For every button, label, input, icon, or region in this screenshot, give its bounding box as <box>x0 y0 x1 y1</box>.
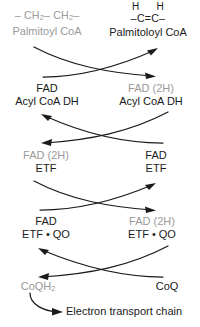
formula-dash-2: – <box>44 9 50 21</box>
acyl-coa-dh-right-enzyme: Acyl CoA DH <box>119 96 183 107</box>
formula-dash-1: – <box>15 9 21 21</box>
coqh2-text: CoQH <box>21 280 52 292</box>
reaction-arrows-layer <box>0 0 200 327</box>
substrate-left-name: Palmitoyl CoA <box>12 26 81 37</box>
etf-left-protein: ETF <box>36 163 57 174</box>
crossing-arrows-etf-qo <box>34 181 156 213</box>
etf-qo-right-cofactor: FAD (2H) <box>129 216 175 227</box>
beta-oxidation-electron-transfer-diagram: – CH2– CH2– Palmitoyl CoA H H –C=C– Palm… <box>0 0 200 327</box>
formula-ch2-2: CH2 <box>53 9 73 21</box>
substrate-left-formula: – CH2– CH2– <box>15 10 80 22</box>
etf-right-cofactor: FAD <box>145 150 166 161</box>
product-right-name: Palmitoloyl CoA <box>109 27 187 38</box>
etf-qo-left-cofactor: FAD <box>35 216 56 227</box>
crossing-arrows-acyl-coa-dh <box>34 47 158 79</box>
coqh2-label: CoQH2 <box>21 281 56 292</box>
electron-transport-chain-arrow <box>30 293 63 316</box>
etf-qo-left-protein: ETF • QO <box>22 229 70 240</box>
coq-label: CoQ <box>156 281 179 292</box>
etf-qo-right-protein: ETF • QO <box>128 229 176 240</box>
formula-dash-3: – <box>73 9 79 21</box>
acyl-coa-dh-left-cofactor: FAD <box>36 83 57 94</box>
coqh2-subscript: 2 <box>51 284 55 293</box>
crossing-arrows-coq <box>38 246 168 280</box>
etf-right-protein: ETF <box>146 163 167 174</box>
product-right-formula: –C=C– <box>131 13 165 24</box>
acyl-coa-dh-left-enzyme: Acyl CoA DH <box>15 96 79 107</box>
acyl-coa-dh-right-cofactor: FAD (2H) <box>128 83 174 94</box>
product-hydrogen-row: H H <box>125 2 171 12</box>
electron-transport-chain-label: Electron transport chain <box>66 306 182 317</box>
etf-left-cofactor: FAD (2H) <box>23 150 69 161</box>
crossing-arrows-etf <box>41 112 168 146</box>
formula-ch2-1: CH2 <box>24 9 44 21</box>
